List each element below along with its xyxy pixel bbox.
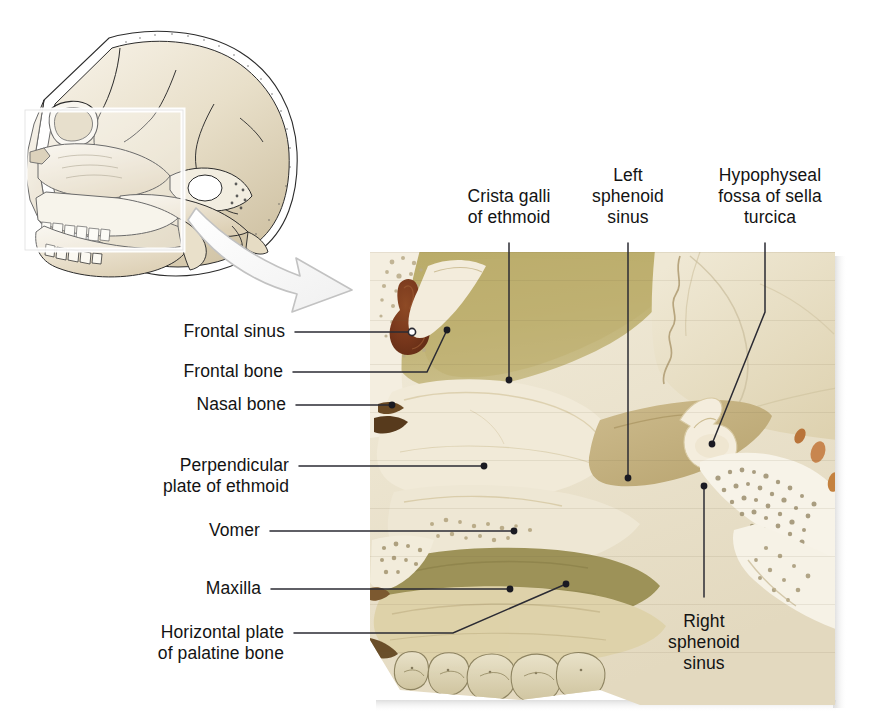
endpoint-right-sphenoid-sinus: [701, 483, 708, 490]
endpoint-vomer: [511, 528, 518, 535]
endpoint-left-sphenoid-sinus: [625, 475, 632, 482]
label-frontal-sinus: Frontal sinus: [95, 321, 285, 342]
endpoint-frontal-bone: [444, 327, 451, 334]
label-nasal-bone: Nasal bone: [96, 394, 286, 415]
label-maxilla: Maxilla: [61, 578, 261, 599]
endpoint-perpendicular-plate: [481, 463, 488, 470]
endpoint-hypophyseal-fossa: [709, 441, 716, 448]
inset-region-of-interest-box: [25, 110, 183, 250]
endpoint-maxilla: [507, 586, 514, 593]
label-right-sphenoid-sinus: Right sphenoid sinus: [644, 611, 764, 674]
label-horizontal-plate-of-palatine-bone: Horizontal plate of palatine bone: [74, 622, 284, 664]
endpoint-horizontal-plate: [563, 581, 570, 588]
label-frontal-bone: Frontal bone: [93, 361, 283, 382]
label-hypophyseal-fossa: Hypophyseal fossa of sella turcica: [690, 165, 850, 228]
label-vomer: Vomer: [60, 520, 260, 541]
endpoint-frontal-sinus: [408, 328, 415, 335]
endpoint-nasal-bone: [389, 402, 396, 409]
endpoint-crista-galli: [506, 377, 513, 384]
label-crista-galli: Crista galli of ethmoid: [431, 186, 587, 228]
skull-sagittal-photograph: [365, 248, 847, 712]
label-left-sphenoid-sinus: Left sphenoid sinus: [568, 165, 688, 228]
anatomy-figure: Crista galli of ethmoid Left sphenoid si…: [0, 0, 870, 726]
label-perpendicular-plate-of-ethmoid: Perpendicular plate of ethmoid: [79, 455, 289, 497]
